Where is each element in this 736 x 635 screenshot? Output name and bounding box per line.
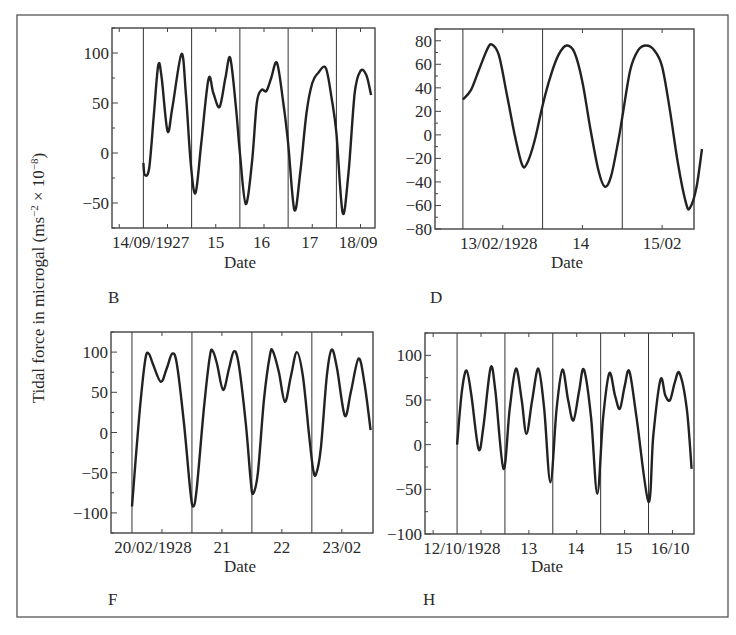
y-tick-label: −40 [405, 173, 432, 192]
plot-frame [111, 332, 373, 533]
y-tick-label: −80 [405, 220, 432, 239]
x-tick-label: 17 [301, 233, 319, 252]
x-tick-label: 15 [207, 233, 224, 252]
panel-letter: D [430, 288, 442, 307]
y-tick-label: 100 [397, 346, 423, 365]
y-tick-label: 100 [84, 44, 110, 63]
x-axis-label: Date [224, 557, 256, 576]
tidal-force-figure: Tidal force in microgal (ms−2 × 10−8) 10… [0, 0, 736, 635]
x-tick-label: 16/10 [651, 539, 690, 558]
x-tick-label: 15 [615, 539, 632, 558]
x-axis-label: Date [551, 253, 583, 272]
x-tick-label: 12/10/1928 [423, 539, 500, 558]
x-tick-label: 23/02 [322, 538, 361, 557]
tidal-force-line [143, 54, 371, 214]
x-tick-label: 13/02/1928 [460, 234, 537, 253]
y-tick-label: 50 [92, 94, 109, 113]
x-tick-label: 18/09 [339, 233, 378, 252]
y-tick-label: −50 [395, 480, 422, 499]
y-tick-label: 0 [100, 424, 109, 443]
y-tick-label: 0 [424, 126, 433, 145]
y-tick-label: 20 [415, 102, 432, 121]
x-tick-label: 14 [572, 234, 590, 253]
x-axis-label: Date [531, 557, 563, 576]
y-tick-label: 100 [83, 343, 109, 362]
panel-H: 100500−50−10012/10/192813141516/10DateH [387, 333, 694, 609]
panel-D: 806040200−20−40−60−8013/02/19281415/02Da… [405, 29, 702, 307]
x-tick-label: 16 [253, 233, 270, 252]
y-tick-label: −50 [81, 464, 108, 483]
plot-frame [435, 29, 694, 229]
panel-letter: B [108, 288, 119, 307]
x-tick-label: 15/02 [643, 234, 682, 253]
y-tick-label: 60 [415, 55, 432, 74]
panel-letter: F [108, 590, 117, 609]
y-tick-label: −50 [82, 194, 109, 213]
tidal-force-line [132, 349, 371, 506]
y-tick-label: −60 [405, 196, 432, 215]
x-axis-label: Date [224, 253, 256, 272]
y-tick-label: −100 [387, 525, 422, 544]
x-tick-label: 20/02/1928 [114, 538, 191, 557]
y-tick-label: 50 [91, 383, 108, 402]
x-tick-label: 22 [273, 538, 290, 557]
tidal-force-line [463, 44, 702, 209]
y-tick-label: −100 [73, 504, 108, 523]
x-tick-label: 14/09/1927 [112, 233, 190, 252]
panels-group: 100500−5014/09/192715161718/09DateB80604… [73, 28, 702, 609]
x-tick-label: 21 [213, 538, 230, 557]
y-tick-label: 50 [405, 391, 422, 410]
x-tick-label: 14 [567, 539, 585, 558]
tidal-force-line [457, 366, 691, 502]
panel-letter: H [423, 590, 435, 609]
x-tick-label: 13 [520, 539, 537, 558]
y-tick-label: 0 [101, 144, 110, 163]
y-tick-label: 0 [414, 436, 423, 455]
y-tick-label: 40 [415, 79, 432, 98]
panel-F: 100500−50−10020/02/1928212223/02DateF [73, 332, 373, 609]
panel-B: 100500−5014/09/192715161718/09DateB [82, 28, 377, 307]
y-axis-label: Tidal force in microgal (ms−2 × 10−8) [28, 153, 48, 404]
y-tick-label: −20 [405, 149, 432, 168]
y-tick-label: 80 [415, 32, 432, 51]
